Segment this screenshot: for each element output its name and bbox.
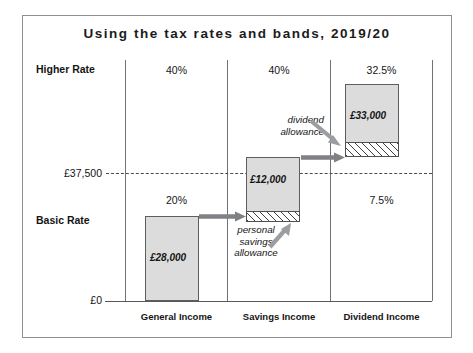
annotation-personal-savings-line-3: allowance <box>222 247 290 259</box>
rate-general-higher: 40% <box>126 64 227 76</box>
band-label-higher-rate: Higher Rate <box>36 63 95 75</box>
bar-value-savings-income: £12,000 <box>250 174 286 185</box>
band-label-basic-rate: Basic Rate <box>36 214 90 226</box>
allowance-dividend <box>345 142 399 157</box>
column-divider-right <box>432 60 433 301</box>
annotation-personal-savings-line-2: savings <box>222 236 290 248</box>
annotation-dividend-allowance-line-2: allowance <box>251 126 324 138</box>
annotation-personal-savings-allowance: personal savings allowance <box>222 224 290 259</box>
rate-dividend-basic: 7.5% <box>331 194 432 206</box>
column-divider-1 <box>227 60 228 301</box>
annotation-personal-savings-line-1: personal <box>222 224 290 236</box>
category-label-dividend-income: Dividend Income <box>331 311 432 322</box>
rate-dividend-higher: 32.5% <box>331 64 432 76</box>
category-label-savings-income: Savings Income <box>228 311 330 322</box>
tax-bands-chart: Using the tax rates and bands, 2019/20 H… <box>0 0 473 353</box>
bar-value-dividend-income: £33,000 <box>350 110 386 121</box>
annotation-dividend-allowance-line-1: dividend <box>251 114 324 126</box>
bar-value-general-income: £28,000 <box>150 252 186 263</box>
zero-axis-line <box>105 301 432 302</box>
chart-title: Using the tax rates and bands, 2019/20 <box>22 26 452 41</box>
y-tick-threshold: £37,500 <box>36 167 102 179</box>
rate-general-basic: 20% <box>126 194 227 206</box>
column-divider-left <box>125 60 126 301</box>
column-divider-2 <box>330 60 331 301</box>
category-label-general-income: General Income <box>126 311 227 322</box>
rate-savings-higher: 40% <box>228 64 330 76</box>
annotation-dividend-allowance: dividend allowance <box>251 114 324 137</box>
allowance-personal-savings <box>246 211 300 222</box>
y-tick-zero: £0 <box>56 294 102 306</box>
